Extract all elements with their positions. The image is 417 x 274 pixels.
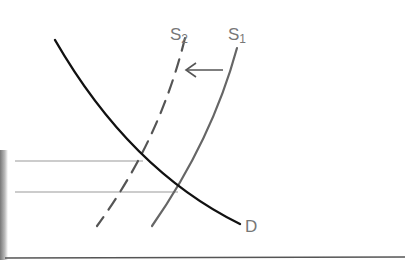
label-s1: S1: [228, 26, 246, 45]
shift-arrow-icon: [186, 63, 223, 77]
label-s2: S2: [170, 26, 188, 45]
supply-curve-s1: [152, 48, 237, 226]
label-d: D: [245, 218, 257, 235]
supply-demand-diagram: [0, 0, 417, 274]
x-axis: [5, 257, 405, 258]
demand-curve: [55, 40, 240, 224]
